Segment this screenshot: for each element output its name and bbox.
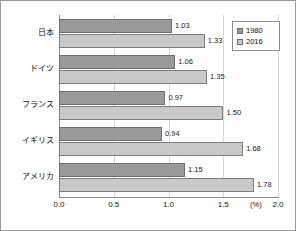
bar-2016 (59, 70, 207, 84)
category-label-germany: ドイツ (2, 62, 54, 73)
category-label-japan: 日本 (2, 26, 54, 37)
bar-1980 (59, 19, 172, 33)
x-tick-2: 1.0 (163, 200, 174, 209)
bar-chart: 1.03 1.33 1.06 1.35 0.97 1.50 0.94 1.68 … (0, 0, 296, 231)
legend-item-2016: 2016 (237, 36, 275, 47)
bar-2016 (59, 178, 254, 192)
bar-value-2016: 1.35 (210, 70, 225, 84)
bar-value-1980: 0.94 (165, 127, 180, 141)
x-tick-0: 0.0 (53, 200, 64, 209)
bar-group: 0.97 1.50 (59, 91, 278, 120)
legend-label-2016: 2016 (246, 36, 263, 47)
bar-2016 (59, 142, 243, 156)
bar-group: 0.94 1.68 (59, 127, 278, 156)
axis-unit-label: (%) (250, 200, 262, 209)
bar-group: 1.15 1.78 (59, 163, 278, 192)
x-tick-3: 1.5 (218, 200, 229, 209)
category-label-france: フランス (2, 98, 54, 109)
bar-group: 1.06 1.35 (59, 55, 278, 84)
bar-1980 (59, 163, 185, 177)
bar-value-1980: 1.03 (175, 19, 190, 33)
category-axis-labels: 日本 ドイツ フランス イギリス アメリカ (1, 15, 54, 197)
bar-value-1980: 1.06 (178, 55, 193, 69)
legend-label-1980: 1980 (246, 25, 263, 36)
category-label-usa: アメリカ (2, 170, 54, 181)
legend-swatch-icon (237, 39, 243, 45)
bar-value-2016: 1.50 (227, 106, 242, 120)
bar-2016 (59, 106, 223, 120)
legend-swatch-icon (237, 28, 243, 34)
legend-item-1980: 1980 (237, 25, 275, 36)
bar-1980 (59, 55, 175, 69)
x-tick-1: 0.5 (108, 200, 119, 209)
bar-value-2016: 1.78 (257, 178, 272, 192)
bar-value-2016: 1.33 (208, 34, 223, 48)
bar-1980 (59, 91, 165, 105)
x-axis-line (59, 197, 279, 198)
bar-1980 (59, 127, 162, 141)
bar-value-2016: 1.68 (246, 142, 261, 156)
category-label-uk: イギリス (2, 134, 54, 145)
bar-value-1980: 0.97 (168, 91, 183, 105)
legend: 1980 2016 (232, 21, 280, 51)
x-tick-4: 2.0 (272, 200, 283, 209)
bar-2016 (59, 34, 205, 48)
bar-value-1980: 1.15 (188, 163, 203, 177)
